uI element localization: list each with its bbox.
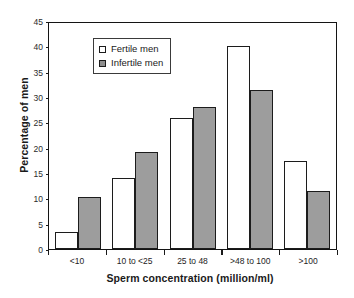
x-axis-tick-mark — [164, 250, 165, 255]
y-axis-tick-label: 5 — [19, 221, 43, 230]
y-axis-tick-label: 35 — [19, 69, 43, 78]
bar-group — [221, 23, 278, 249]
x-axis-tick-mark — [279, 250, 280, 255]
x-axis-tick-mark — [48, 250, 49, 255]
legend-label: Fertile men — [111, 44, 159, 54]
bar-infertile — [250, 90, 273, 249]
x-axis-category-label: <10 — [48, 256, 106, 270]
y-axis-tick-labels: 051015202530354045 — [20, 22, 46, 250]
bar-infertile — [193, 107, 216, 249]
x-axis-category-label: 25 to 48 — [164, 256, 222, 270]
legend-swatch-white-square-icon — [99, 46, 106, 53]
y-axis-tick-label: 15 — [19, 170, 43, 179]
y-axis-tick-label: 30 — [19, 94, 43, 103]
y-axis-tick-label: 20 — [19, 145, 43, 154]
legend-label: Infertile men — [111, 58, 163, 68]
x-axis-category-label: >48 to 100 — [221, 256, 279, 270]
bar-fertile — [55, 232, 78, 249]
y-axis-tick-label: 40 — [19, 43, 43, 52]
y-axis-tick-label: 10 — [19, 195, 43, 204]
bar-group — [279, 23, 336, 249]
bar-fertile — [284, 161, 307, 249]
bar-group — [164, 23, 221, 249]
bar-chart-figure: Percentage of men 051015202530354045 <10… — [0, 0, 354, 298]
legend-item-fertile: Fertile men — [99, 42, 163, 56]
x-axis-tick-labels: <1010 to <2525 to 48>48 to 100>100 — [48, 256, 337, 270]
x-axis-ticks — [48, 250, 337, 255]
bar-fertile — [227, 46, 250, 249]
bar-infertile — [78, 197, 101, 249]
legend-swatch-gray-square-icon — [99, 60, 106, 67]
y-axis-tick-label: 45 — [19, 18, 43, 27]
x-axis-tick-mark — [221, 250, 222, 255]
chart-legend: Fertile men Infertile men — [93, 38, 171, 74]
x-axis-tick-mark — [106, 250, 107, 255]
legend-item-infertile: Infertile men — [99, 56, 163, 70]
bar-infertile — [307, 191, 330, 249]
bar-infertile — [135, 152, 158, 249]
bar-fertile — [170, 118, 193, 249]
x-axis-tick-mark — [337, 250, 338, 255]
bar-fertile — [112, 178, 135, 249]
y-axis-tick-label: 25 — [19, 119, 43, 128]
plot-area — [48, 22, 337, 250]
x-axis-category-label: 10 to <25 — [106, 256, 164, 270]
x-axis-category-label: >100 — [279, 256, 337, 270]
y-axis-tick-label: 0 — [19, 246, 43, 255]
x-axis-title: Sperm concentration (million/ml) — [40, 272, 340, 284]
